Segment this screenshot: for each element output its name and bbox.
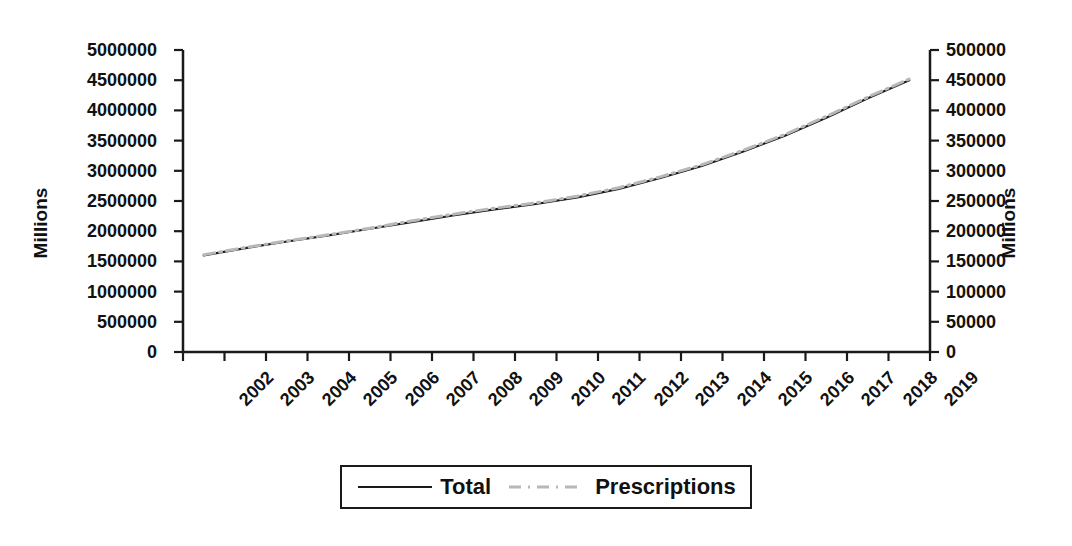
line-chart: Millions Millions 0500000100000015000002… [0, 0, 1072, 546]
axes [174, 50, 939, 361]
series-line-total [204, 80, 910, 255]
solid-line-swatch [356, 480, 434, 494]
data-series [204, 79, 910, 255]
dash-dot-line-swatch [507, 480, 585, 494]
legend-label-prescriptions: Prescriptions [595, 474, 736, 500]
legend-item-prescriptions[interactable]: Prescriptions [507, 467, 736, 507]
chart-legend: Total Prescriptions [340, 465, 752, 509]
legend-item-total[interactable]: Total [356, 467, 491, 507]
legend-label-total: Total [440, 474, 491, 500]
series-line-prescriptions [204, 79, 910, 255]
